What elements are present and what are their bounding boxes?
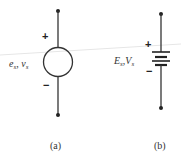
plus-sign-b: + [145,38,151,50]
plus-sign-a: + [42,30,48,42]
source-a: + − es, vs (a) [9,9,73,152]
caption-a: (a) [50,140,61,152]
minus-sign-b: − [146,65,152,77]
source-label-a: es, vs [9,58,29,71]
terminal-bottom-a [56,113,60,117]
minus-sign-a: − [43,79,49,91]
source-label-b: Es,Vs [113,55,134,68]
caption-b: (b) [154,140,166,152]
source-b: + − Es,Vs (b) [113,12,170,152]
scan-artifact [0,44,181,55]
terminal-bottom-b [159,106,163,110]
circuit-diagram: + − es, vs (a) + − Es,Vs (b) [0,0,181,160]
